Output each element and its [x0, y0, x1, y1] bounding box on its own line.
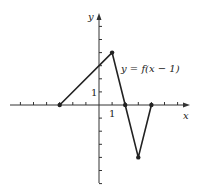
x-axis-label: x — [183, 110, 189, 121]
data-point — [136, 155, 140, 159]
axes — [10, 17, 186, 183]
data-point — [123, 103, 127, 107]
y-axis-label: y — [87, 11, 94, 22]
graph: y x 1 1 y = f(x − 1) — [0, 0, 199, 191]
y-axis-arrow-icon — [97, 13, 102, 20]
y-tick-label-1: 1 — [91, 87, 97, 98]
data-point — [110, 50, 114, 54]
x-tick-label-1: 1 — [109, 108, 115, 119]
curve-annotation: y = f(x − 1) — [120, 63, 180, 74]
data-point — [149, 103, 153, 107]
x-axis-arrow-icon — [183, 103, 190, 108]
data-point — [58, 103, 62, 107]
